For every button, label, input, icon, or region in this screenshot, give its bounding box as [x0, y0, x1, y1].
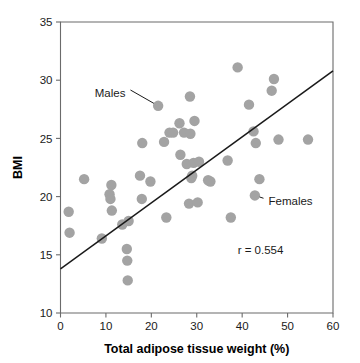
- data-point: [189, 116, 199, 126]
- y-tick-label-25: 25: [40, 133, 53, 145]
- data-point: [244, 99, 254, 109]
- data-point: [269, 74, 279, 84]
- data-point: [168, 127, 178, 137]
- x-tick-label-30: 30: [190, 320, 203, 332]
- data-point: [273, 134, 283, 144]
- data-point: [303, 134, 313, 144]
- data-point: [123, 275, 133, 285]
- y-tick-label-35: 35: [40, 16, 53, 28]
- x-tick-label-10: 10: [100, 320, 113, 332]
- data-point: [174, 118, 184, 128]
- chart-canvas: 1015202530350102030405060 MalesFemalesr …: [0, 0, 360, 363]
- x-tick-label-20: 20: [145, 320, 158, 332]
- data-point: [79, 174, 89, 184]
- x-tick-label-50: 50: [281, 320, 294, 332]
- y-tick-label-30: 30: [40, 74, 53, 86]
- data-point: [137, 194, 147, 204]
- data-point: [106, 180, 116, 190]
- data-point: [185, 129, 195, 139]
- data-point: [175, 150, 185, 160]
- data-point: [251, 138, 261, 148]
- data-point: [222, 155, 232, 165]
- data-point: [250, 190, 260, 200]
- data-point: [107, 205, 117, 215]
- y-axis-title: BMI: [11, 156, 25, 179]
- data-point: [266, 85, 276, 95]
- x-tick-label-0: 0: [57, 320, 63, 332]
- y-tick-label-10: 10: [40, 307, 53, 319]
- data-point: [192, 197, 202, 207]
- y-tick-label-20: 20: [40, 191, 53, 203]
- data-point: [145, 176, 155, 186]
- data-point: [64, 227, 74, 237]
- scatter-plot-figure: 1015202530350102030405060 MalesFemalesr …: [0, 0, 360, 363]
- y-tick-label-15: 15: [40, 249, 53, 261]
- x-tick-label-40: 40: [236, 320, 249, 332]
- data-point: [153, 101, 163, 111]
- data-point: [185, 91, 195, 101]
- data-point: [122, 255, 132, 265]
- data-point: [159, 137, 169, 147]
- x-tick-label-60: 60: [327, 320, 340, 332]
- annotation-females: Females: [269, 195, 313, 207]
- annotation-males: Males: [95, 87, 126, 99]
- data-point: [161, 212, 171, 222]
- data-point: [226, 212, 236, 222]
- annotation-correlation: r = 0.554: [238, 244, 284, 256]
- data-point: [63, 207, 73, 217]
- data-point: [205, 176, 215, 186]
- data-point: [137, 138, 147, 148]
- x-axis-title: Total adipose tissue weight (%): [104, 342, 289, 356]
- data-point: [105, 194, 115, 204]
- data-point: [232, 62, 242, 72]
- data-point: [254, 174, 264, 184]
- data-point: [135, 170, 145, 180]
- data-point: [122, 244, 132, 254]
